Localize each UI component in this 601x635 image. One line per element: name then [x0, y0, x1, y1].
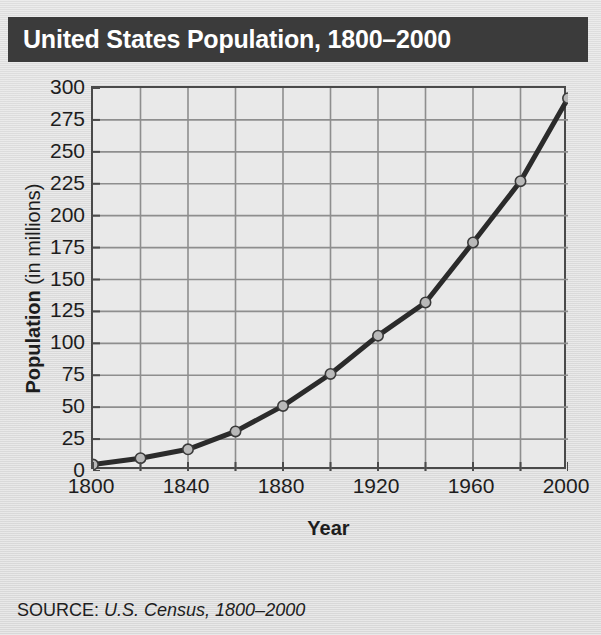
y-axis-tick-labels: 3002752502252001751501251007550250: [31, 62, 85, 493]
figure-root: United States Population, 1800–2000 Popu…: [0, 0, 601, 635]
plot-frame: [91, 86, 566, 469]
y-tick-label: 100: [33, 331, 85, 352]
y-tick-label: 300: [33, 76, 85, 97]
y-tick-label: 250: [33, 139, 85, 160]
x-axis-ticks: [93, 462, 568, 471]
x-axis-tick-labels: 180018401880192019602000: [0, 475, 601, 509]
source-value: U.S. Census, 1800–2000: [104, 600, 305, 620]
chart-title-band: United States Population, 1800–2000: [8, 17, 588, 62]
y-axis-ticks: [93, 88, 100, 471]
data-point: [373, 330, 383, 340]
chart-area: Population (in millions) 300275250225200…: [0, 62, 601, 562]
data-point: [278, 401, 288, 411]
x-tick-label: 1880: [241, 475, 321, 496]
data-point: [420, 297, 430, 307]
data-point: [468, 237, 478, 247]
y-tick-label: 175: [33, 235, 85, 256]
data-point: [183, 444, 193, 454]
source-note: SOURCE: U.S. Census, 1800–2000: [17, 600, 305, 621]
y-tick-label: 225: [33, 171, 85, 192]
y-tick-label: 150: [33, 267, 85, 288]
y-tick-label: 75: [33, 363, 85, 384]
chart-title: United States Population, 1800–2000: [8, 25, 451, 54]
y-tick-label: 275: [33, 107, 85, 128]
plot-svg: [93, 88, 568, 471]
data-point: [563, 93, 568, 103]
y-tick-label: 125: [33, 299, 85, 320]
x-axis-title: Year: [91, 517, 566, 540]
data-point: [135, 453, 145, 463]
data-point: [325, 369, 335, 379]
x-tick-label: 1800: [51, 475, 131, 496]
data-point: [515, 176, 525, 186]
y-tick-label: 25: [33, 427, 85, 448]
x-tick-label: 1840: [146, 475, 226, 496]
source-label: SOURCE:: [17, 600, 99, 620]
x-tick-label: 2000: [526, 475, 601, 496]
y-tick-label: 200: [33, 203, 85, 224]
data-point: [230, 426, 240, 436]
y-tick-label: 50: [33, 395, 85, 416]
x-tick-label: 1960: [431, 475, 511, 496]
x-tick-label: 1920: [336, 475, 416, 496]
